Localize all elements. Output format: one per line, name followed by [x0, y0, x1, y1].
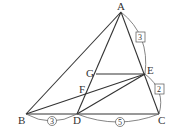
ratio-dc: 5: [118, 118, 122, 127]
point-label-b: B: [18, 114, 25, 126]
point-label-e: E: [147, 64, 154, 76]
segment-ab: [26, 12, 121, 114]
segment-ad: [77, 12, 121, 114]
ratio-ae: 3: [138, 33, 142, 42]
segment-ac: [121, 12, 159, 114]
geometry-diagram: A B C D E F G 3 2 3 5: [0, 0, 183, 140]
point-label-g: G: [86, 67, 94, 79]
ratio-ec: 2: [157, 85, 161, 94]
point-label-a: A: [117, 0, 125, 12]
segment-be: [26, 74, 145, 114]
point-label-f: F: [79, 83, 85, 95]
point-label-c: C: [158, 114, 165, 126]
point-label-d: D: [73, 114, 81, 126]
ratio-bd: 3: [50, 117, 54, 126]
